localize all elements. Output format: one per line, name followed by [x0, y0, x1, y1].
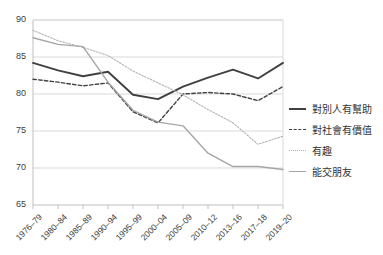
legend-item-interesting[interactable]: 有趣 [289, 140, 383, 161]
y-axis-tick-label: 65 [4, 199, 26, 209]
series-line [33, 30, 283, 144]
chart-legend: 對別人有幫助 對社會有價值 有趣 能交朋友 [289, 98, 383, 182]
series-line [33, 79, 283, 123]
legend-label: 對社會有價值 [312, 122, 372, 137]
gridlines [33, 20, 283, 205]
y-axis-tick-label: 85 [4, 51, 26, 61]
legend-item-valuable-to-society[interactable]: 對社會有價值 [289, 119, 383, 140]
legend-item-helpful-to-others[interactable]: 對別人有幫助 [289, 98, 383, 119]
y-axis-tick-label: 80 [4, 88, 26, 98]
legend-label: 有趣 [312, 143, 332, 158]
x-tick-marks [33, 205, 283, 209]
legend-line-solid-light-icon [289, 171, 306, 172]
plot-border [33, 20, 283, 205]
series-line [33, 38, 283, 170]
series-lines [33, 30, 283, 169]
y-axis-tick-label: 75 [4, 125, 26, 135]
y-axis-tick-label: 70 [4, 162, 26, 172]
y-axis-tick-label: 90 [4, 14, 26, 24]
legend-label: 對別人有幫助 [312, 101, 372, 116]
legend-line-dashed-dark-icon [289, 129, 306, 130]
legend-line-dotted-light-icon [289, 150, 306, 151]
line-chart: 908580757065 1976–791980–841985–891990–9… [0, 0, 383, 255]
legend-label: 能交朋友 [312, 164, 352, 179]
legend-item-make-friends[interactable]: 能交朋友 [289, 161, 383, 182]
legend-line-solid-dark-icon [289, 108, 306, 110]
